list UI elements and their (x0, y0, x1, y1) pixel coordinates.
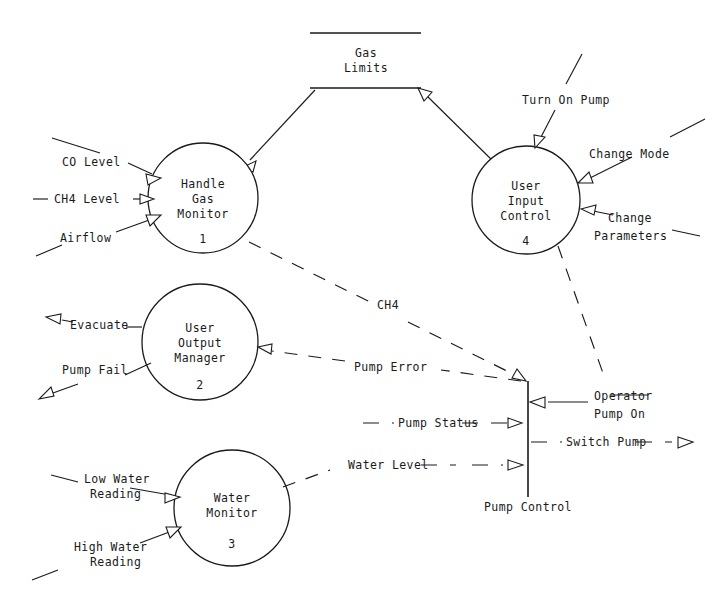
flow-change-mode[interactable]: Change Mode (578, 119, 705, 183)
flow-label-evacuate: Evacuate (70, 318, 129, 332)
gas-limits-label-line1: Gas (355, 46, 377, 60)
flow-label-pump-error: Pump Error (354, 360, 427, 374)
flow-label-high-water-line2: Reading (90, 555, 141, 569)
gas-limits-label-line2: Limits (344, 61, 388, 75)
flow-label-ch4: CH4 (377, 298, 399, 312)
data-flow-diagram: Gas Limits Handle Gas Monitor 1 CO Level… (0, 0, 726, 611)
flow-evacuate[interactable]: Evacuate (46, 314, 142, 332)
arrowhead-switch-pump (678, 437, 693, 448)
flow-label-turn-on-pump: Turn On Pump (522, 93, 610, 107)
flow-label-water-level: Water Level (348, 458, 429, 472)
process-1-number: 1 (199, 232, 206, 246)
flow-pump-status[interactable]: Pump Status (363, 416, 522, 430)
process-1-label-line2: Gas (192, 192, 214, 206)
process-2-label-line3: Manager (174, 351, 225, 365)
flow-high-water-reading[interactable]: High Water Reading (32, 527, 181, 580)
arrowhead-pump-status (508, 418, 522, 428)
flow-label-co-level: CO Level (62, 155, 121, 169)
flow-label-low-water-line1: Low Water (84, 472, 150, 486)
pump-control-label: Pump Control (484, 500, 572, 514)
dfd-canvas: Gas Limits Handle Gas Monitor 1 CO Level… (0, 0, 726, 611)
process-4-label-line3: Control (500, 209, 551, 223)
flow-label-low-water-line2: Reading (90, 487, 141, 501)
process-3-number: 3 (228, 537, 235, 551)
flow-gas-limits-to-handle-gas-monitor[interactable] (241, 90, 315, 172)
flow-label-high-water-line1: High Water (74, 540, 147, 554)
flow-label-change-params-line1: Change (608, 211, 652, 225)
process-1-label-line1: Handle (181, 177, 225, 191)
flow-label-operator-line2: Pump On (594, 407, 645, 421)
arrowhead-operator-pump-on (530, 397, 545, 408)
flow-turn-on-pump[interactable]: Turn On Pump (522, 54, 610, 148)
process-water-monitor[interactable]: Water Monitor 3 (174, 450, 290, 566)
arrowhead-water-level (508, 460, 523, 470)
flow-water-level[interactable]: Water Level (283, 458, 523, 487)
arrowhead-ch4-into-pump-control (512, 369, 526, 381)
flow-label-switch-pump: Switch Pump (566, 435, 647, 449)
process-3-label-line2: Monitor (206, 506, 257, 520)
arrowhead-evacuate (46, 314, 61, 324)
flow-operator-pump-on[interactable]: Operator Pump On (530, 389, 653, 421)
flow-label-ch4-level: CH4 Level (54, 192, 120, 206)
flow-label-pump-status: Pump Status (398, 416, 479, 430)
flow-pump-error[interactable]: Pump Error (258, 344, 521, 381)
flow-ch4-level[interactable]: CH4 Level (33, 192, 154, 206)
flow-user-input-control-to-pump-control[interactable] (558, 246, 604, 376)
arrowhead-change-mode (578, 172, 593, 183)
flow-label-pump-fail: Pump Fail (62, 363, 128, 377)
process-2-label-line1: User (185, 321, 214, 335)
flow-label-operator-line1: Operator (594, 389, 653, 403)
flow-label-airflow: Airflow (60, 231, 111, 245)
flow-airflow[interactable]: Airflow (36, 215, 161, 256)
process-4-label-line1: User (511, 179, 540, 193)
process-2-number: 2 (196, 378, 203, 392)
flow-pump-fail[interactable]: Pump Fail (39, 363, 151, 399)
flow-low-water-reading[interactable]: Low Water Reading (51, 472, 180, 503)
process-user-input-control[interactable]: User Input Control 4 (472, 146, 580, 254)
arrowhead-change-parameters (581, 205, 596, 215)
process-4-label-line2: Input (508, 194, 545, 208)
process-3-label-line1: Water (214, 491, 251, 505)
process-handle-gas-monitor[interactable]: Handle Gas Monitor 1 (148, 143, 258, 253)
flow-change-parameters[interactable]: Change Parameters (581, 205, 700, 243)
process-4-number: 4 (522, 234, 529, 248)
process-1-label-line3: Monitor (177, 207, 228, 221)
flow-co-level[interactable]: CO Level (52, 138, 161, 185)
arrowhead-pump-fail (39, 387, 54, 399)
flow-label-change-mode: Change Mode (589, 147, 670, 161)
process-2-label-line2: Output (178, 336, 222, 350)
data-store-pump-control[interactable]: Pump Control (484, 381, 572, 514)
data-store-gas-limits[interactable]: Gas Limits (310, 33, 421, 88)
flow-label-change-params-line2: Parameters (594, 229, 667, 243)
process-user-output-manager[interactable]: User Output Manager 2 (142, 284, 258, 400)
flow-user-input-control-to-gas-limits[interactable] (418, 88, 497, 165)
arrowhead-turn-on-pump (534, 135, 545, 148)
flow-switch-pump[interactable]: Switch Pump (531, 435, 693, 449)
arrowhead-pump-error-into-process-2 (258, 344, 272, 354)
